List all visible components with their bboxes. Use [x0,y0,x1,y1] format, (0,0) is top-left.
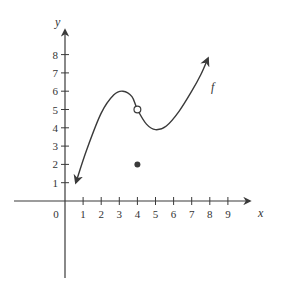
x-tick-label: 4 [135,208,141,220]
x-tick-label: 6 [171,208,177,220]
x-tick-label: 1 [80,208,86,220]
open-point [134,106,141,113]
curve-label-f: f [211,80,216,94]
x-tick-label: 9 [225,208,231,220]
y-tick-label: 4 [53,122,59,134]
y-tick-label: 5 [53,104,59,116]
y-tick-label: 1 [53,177,59,189]
curve-f [76,58,208,182]
x-tick-label: 2 [98,208,104,220]
x-axis-label: x [257,206,264,220]
function-graph: 12345678912345678 x y 0 f [0,0,286,293]
y-tick-label: 3 [53,140,59,152]
y-tick-label: 2 [53,158,59,170]
filled-point [134,161,140,167]
y-tick-label: 6 [53,85,59,97]
x-tick-label: 8 [207,208,213,220]
ticks [61,55,228,205]
y-tick-label: 7 [53,67,59,79]
tick-labels: 12345678912345678 [53,49,232,220]
origin-label: 0 [53,208,59,220]
curves [76,58,208,182]
x-tick-label: 3 [117,208,123,220]
x-tick-label: 7 [189,208,195,220]
x-tick-label: 5 [153,208,159,220]
y-axis-label: y [54,15,61,29]
axes [14,30,250,278]
y-tick-label: 8 [53,49,59,61]
